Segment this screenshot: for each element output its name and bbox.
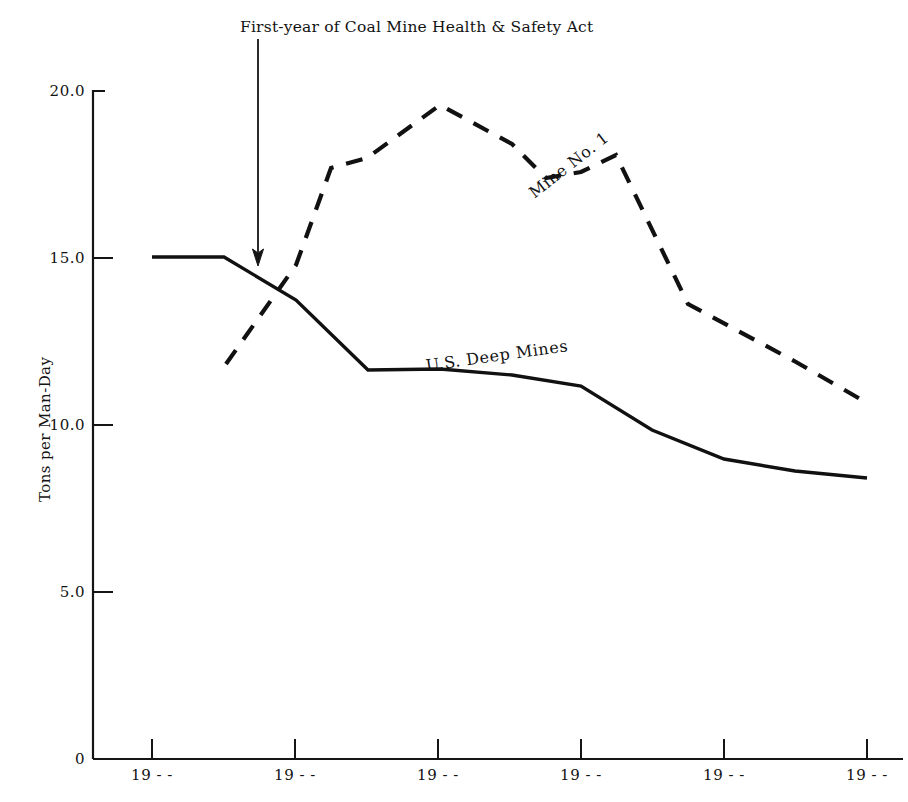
y-tick-label-15: 15.0 (49, 249, 85, 267)
chart-figure: 20.0 15.0 10.0 5.0 0 Tons per Man-Day 19… (0, 0, 908, 802)
x-tick-label-3: 19 - - (408, 766, 468, 784)
y-tick-label-10: 10.0 (49, 416, 85, 434)
annotation-label-coal-mine-act: First-year of Coal Mine Health & Safety … (240, 18, 593, 36)
x-tick-label-2: 19 - - (265, 766, 325, 784)
chart-plot-area (0, 0, 908, 802)
x-tick-label-4: 19 - - (551, 766, 611, 784)
annotation-arrow (253, 39, 264, 266)
y-tick-label-20: 20.0 (49, 82, 85, 100)
x-axis-ticks (152, 739, 867, 759)
x-tick-label-1: 19 - - (122, 766, 182, 784)
y-tick-label-5: 5.0 (49, 583, 85, 601)
y-axis-ticks (93, 258, 113, 592)
x-tick-label-6: 19 - - (837, 766, 897, 784)
series-line-us-deep-mines (152, 257, 867, 478)
series-line-mine-no-1 (226, 105, 867, 403)
y-tick-label-0: 0 (49, 750, 85, 768)
y-axis-title: Tons per Man-Day (36, 357, 54, 502)
x-tick-label-5: 19 - - (694, 766, 754, 784)
